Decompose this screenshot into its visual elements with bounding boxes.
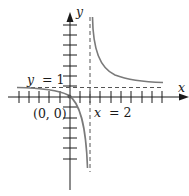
x-axis [8,91,189,103]
vertical-asymptote-value: = 2 [109,105,131,120]
horizontal-asymptote-var: y [26,72,35,87]
origin-label: (0, 0) [33,106,67,121]
vertical-asymptote-label: x = 2 [94,105,131,120]
curve-upper-branch [93,17,164,83]
y-axis-arrow-icon [67,12,74,22]
origin-point [68,95,72,99]
vertical-asymptote-var: x [94,105,101,120]
x-axis-label: x [178,80,185,95]
function-graph: y x y = 1 x = 2 (0, 0) [0,0,189,196]
y-axis-label: y [75,4,84,19]
horizontal-asymptote-value: = 1 [42,72,64,87]
horizontal-asymptote-label: y = 1 [26,72,64,87]
